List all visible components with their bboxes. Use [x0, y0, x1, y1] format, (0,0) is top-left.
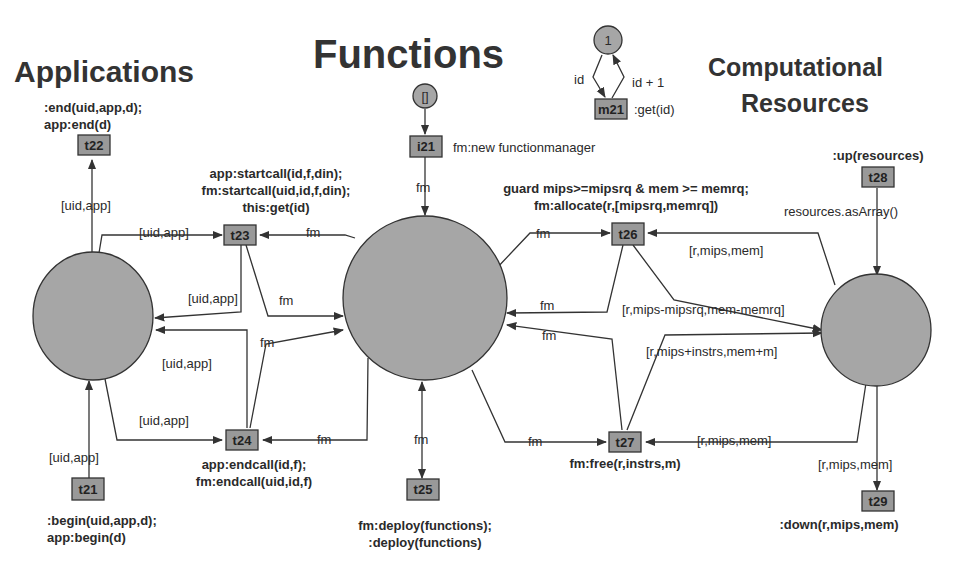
transition-t23[interactable]: t23 [224, 225, 256, 245]
arc-label-i21-out: fm [416, 180, 430, 195]
place-applications[interactable] [33, 252, 153, 380]
arc-resources-to-t26 [648, 233, 835, 285]
t29-id: t29 [869, 494, 888, 509]
t28-action: :up(resources) [832, 148, 923, 163]
t23-id: t23 [231, 228, 250, 243]
arc-label-t22-in: [uid,app] [61, 198, 111, 213]
t26-id: t26 [619, 227, 638, 242]
t24-id: t24 [233, 433, 253, 448]
i21-action: fm:new functionmanager [453, 140, 596, 155]
arc-functions-to-t27 [472, 370, 606, 442]
arc-t27-to-functions [507, 325, 622, 430]
arc-label-t24-out-fm: fm [260, 335, 274, 350]
arc-label-t23-in-app: [uid,app] [139, 225, 189, 240]
t23-action-line1: app:startcall(id,f,din); [210, 166, 343, 181]
t23-action-line3: this:get(id) [242, 200, 309, 215]
arc-functions-to-t24 [263, 358, 368, 440]
arc-app-to-t24 [105, 379, 222, 440]
arc-m21-to-counter [612, 55, 624, 98]
arc-label-t21-out: [uid,app] [49, 450, 99, 465]
arc-label-t24-in-app: [uid,app] [139, 413, 189, 428]
m21-action: :get(id) [634, 102, 674, 117]
t25-action-line1: fm:deploy(functions); [358, 518, 492, 533]
arc-label-t25: fm [414, 432, 428, 447]
arc-label-t23-in-fm: fm [306, 225, 320, 240]
title-resources: Resources [741, 89, 869, 117]
t24-action-line1: app:endcall(id,f); [202, 457, 307, 472]
title-functions: Functions [313, 32, 504, 76]
arc-label-t26-in-fm: fm [536, 226, 550, 241]
t25-id: t25 [414, 482, 433, 497]
place-resources[interactable] [821, 274, 931, 386]
transition-t21[interactable]: t21 [72, 478, 104, 500]
arc-t26-to-functions [507, 245, 623, 313]
arc-label-t24-out-app: [uid,app] [162, 356, 212, 371]
t27-action: fm:free(r,instrs,m) [569, 456, 680, 471]
arc-label-t23-out-app: [uid,app] [188, 291, 238, 306]
arc-label-t27-out-res: [r,mips+instrs,mem+m] [646, 344, 777, 359]
t26-action-line2: fm:allocate(r,[mipsrq,memrq]) [534, 198, 718, 213]
arc-label-t27-in-res: [r,mips,mem] [697, 433, 771, 448]
transition-t27[interactable]: t27 [609, 432, 641, 452]
arc-t23-to-functions [246, 245, 343, 316]
t21-id: t21 [79, 482, 98, 497]
transition-i21[interactable]: i21 [410, 136, 442, 157]
t22-id: t22 [85, 138, 104, 153]
t25-action-line2: :deploy(functions) [368, 535, 481, 550]
transition-t28[interactable]: t28 [862, 167, 894, 187]
place-counter-label: 1 [604, 33, 611, 48]
arc-label-t27-in-fm: fm [528, 434, 542, 449]
arc-label-t26-out-res: [r,mips-mipsrq,mem-memrq] [622, 302, 785, 317]
t27-id: t27 [616, 435, 635, 450]
transition-t25[interactable]: t25 [407, 479, 439, 500]
arc-label-t26-in-res: [r,mips,mem] [689, 243, 763, 258]
arc-label-t28-out: resources.asArray() [784, 204, 898, 219]
m21-id: m21 [598, 102, 624, 117]
t21-action-line2: app:begin(d) [47, 530, 126, 545]
place-init-fm-label: [] [421, 89, 428, 104]
arc-label-t27-out-fm: fm [542, 328, 556, 343]
t23-action-line2: fm:startcall(uid,id,f,din); [202, 183, 351, 198]
t22-action-line1: :end(uid,app,d); [44, 100, 142, 115]
t29-action: :down(r,mips,mem) [779, 517, 898, 532]
arc-label-m21-out: id + 1 [632, 75, 664, 90]
transition-t29[interactable]: t29 [862, 491, 894, 511]
arc-label-t23-out-fm: fm [279, 293, 293, 308]
arc-label-m21-in: id [574, 72, 584, 87]
transition-t24[interactable]: t24 [226, 430, 258, 450]
t21-action-line1: :begin(uid,app,d); [47, 513, 157, 528]
arc-t23-to-app [155, 245, 241, 318]
petri-net-diagram: Applications Functions Computational Res… [0, 0, 957, 576]
transition-t22[interactable]: t22 [78, 135, 110, 155]
transition-m21[interactable]: m21 [595, 99, 627, 119]
arc-functions-to-t26 [495, 233, 610, 270]
arc-label-t26-out-fm: fm [540, 298, 554, 313]
arc-counter-to-m21 [593, 55, 605, 97]
arc-label-t29-in: [r,mips,mem] [818, 457, 892, 472]
i21-id: i21 [417, 139, 435, 154]
place-functions[interactable] [343, 216, 507, 380]
title-computational: Computational [708, 53, 883, 81]
t28-id: t28 [869, 170, 888, 185]
t22-action-line2: app:end(d) [44, 117, 111, 132]
arc-label-t24-in-fm: fm [317, 432, 331, 447]
t26-action-line1: guard mips>=mipsrq & mem >= memrq; [503, 181, 749, 196]
t24-action-line2: fm:endcall(uid,id,f) [196, 474, 312, 489]
title-applications: Applications [14, 55, 194, 88]
transition-t26[interactable]: t26 [612, 223, 644, 245]
